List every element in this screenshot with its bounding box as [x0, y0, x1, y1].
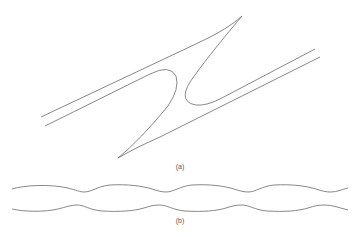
outer-lower-line: [118, 57, 320, 158]
left-inner-curve: [45, 69, 177, 158]
panel-b: [12, 185, 348, 212]
panel-a: [41, 16, 320, 158]
diagram-canvas: [0, 0, 361, 237]
outer-upper-line: [41, 16, 242, 117]
caption-b: (b): [165, 217, 195, 224]
bottom-wave: [12, 205, 348, 211]
caption-a: (a): [165, 163, 195, 170]
top-wave: [12, 185, 348, 192]
